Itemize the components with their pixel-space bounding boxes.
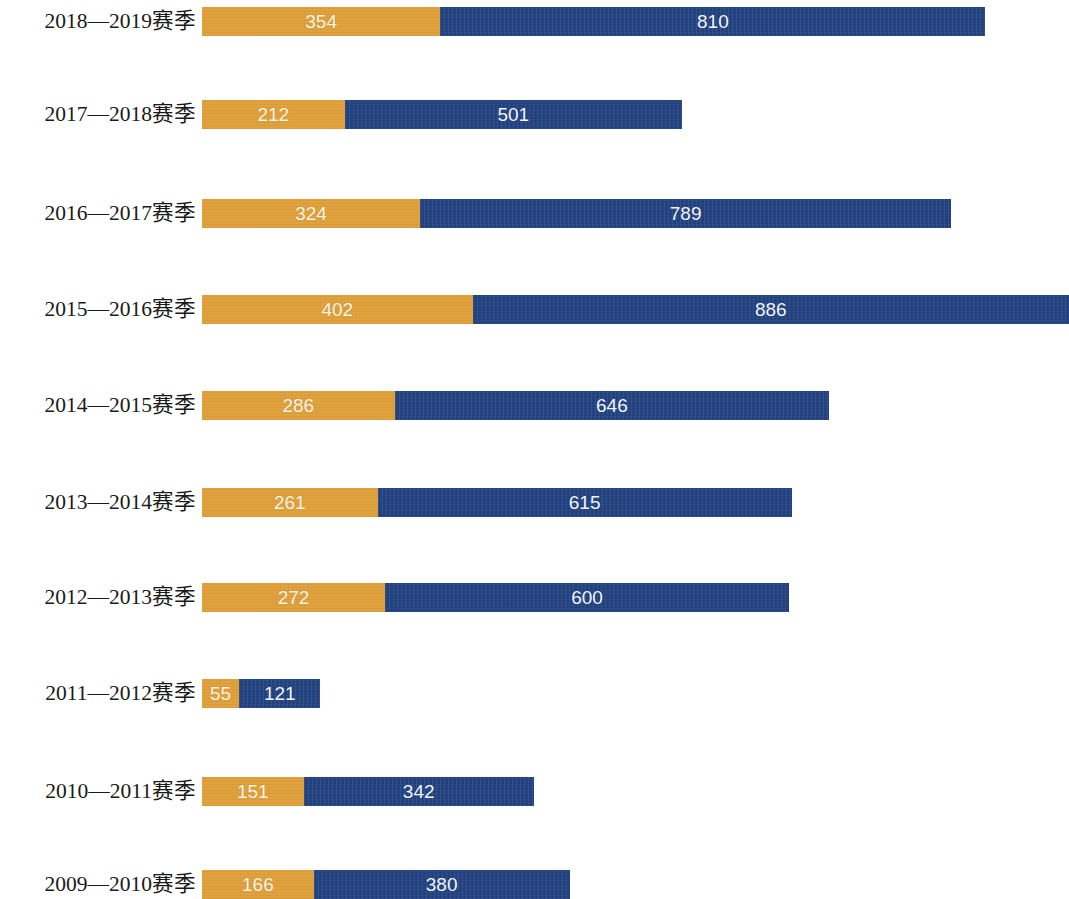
bar-segment-series-1[interactable]: 212: [202, 100, 345, 129]
category-label: 2010—2011赛季: [0, 777, 196, 806]
stacked-bar-track: 261 615: [202, 488, 792, 517]
bar-segment-series-2[interactable]: 886: [473, 295, 1069, 324]
bar-segment-series-1[interactable]: 272: [202, 583, 385, 612]
bar-segment-series-2[interactable]: 342: [304, 777, 534, 806]
bar-segment-series-1[interactable]: 286: [202, 391, 395, 420]
stacked-bar-track: 402 886: [202, 295, 1069, 324]
stacked-bar-chart: 2018—2019赛季 354 810 2017—2018赛季 212 501 …: [0, 0, 1069, 899]
bar-segment-series-1[interactable]: 55: [202, 679, 239, 708]
category-label: 2013—2014赛季: [0, 488, 196, 517]
category-label: 2017—2018赛季: [0, 100, 196, 129]
category-label: 2011—2012赛季: [0, 679, 196, 708]
category-label: 2015—2016赛季: [0, 295, 196, 324]
bar-value-label: 789: [670, 204, 702, 223]
bar-value-label: 166: [242, 875, 274, 894]
bar-value-label: 272: [278, 588, 310, 607]
bar-value-label: 810: [697, 12, 729, 31]
bar-segment-series-1[interactable]: 324: [202, 199, 420, 228]
stacked-bar-track: 286 646: [202, 391, 829, 420]
bar-value-label: 121: [264, 684, 296, 703]
category-label: 2014—2015赛季: [0, 391, 196, 420]
stacked-bar-track: 212 501: [202, 100, 682, 129]
bar-segment-series-2[interactable]: 501: [345, 100, 682, 129]
bar-segment-series-2[interactable]: 615: [378, 488, 792, 517]
bar-segment-series-1[interactable]: 261: [202, 488, 378, 517]
bar-value-label: 151: [237, 782, 269, 801]
stacked-bar-track: 166 380: [202, 870, 570, 899]
stacked-bar-track: 324 789: [202, 199, 951, 228]
category-label: 2012—2013赛季: [0, 583, 196, 612]
bar-segment-series-2[interactable]: 646: [395, 391, 830, 420]
bar-value-label: 212: [257, 105, 289, 124]
bar-segment-series-1[interactable]: 402: [202, 295, 473, 324]
bar-value-label: 886: [755, 300, 787, 319]
bar-value-label: 354: [305, 12, 337, 31]
bar-segment-series-2[interactable]: 810: [440, 7, 985, 36]
bar-segment-series-2[interactable]: 600: [385, 583, 789, 612]
bar-value-label: 600: [571, 588, 603, 607]
bar-value-label: 261: [274, 493, 306, 512]
bar-value-label: 324: [295, 204, 327, 223]
bar-segment-series-1[interactable]: 151: [202, 777, 304, 806]
category-label: 2009—2010赛季: [0, 870, 196, 899]
bar-value-label: 615: [569, 493, 601, 512]
bar-value-label: 501: [497, 105, 529, 124]
bar-value-label: 342: [403, 782, 435, 801]
stacked-bar-track: 55 121: [202, 679, 320, 708]
bar-segment-series-1[interactable]: 166: [202, 870, 314, 899]
bar-segment-series-1[interactable]: 354: [202, 7, 440, 36]
bar-value-label: 55: [210, 684, 231, 703]
bar-segment-series-2[interactable]: 380: [314, 870, 570, 899]
stacked-bar-track: 151 342: [202, 777, 534, 806]
bar-value-label: 402: [321, 300, 353, 319]
bar-value-label: 380: [426, 875, 458, 894]
bar-value-label: 646: [596, 396, 628, 415]
stacked-bar-track: 354 810: [202, 7, 985, 36]
stacked-bar-track: 272 600: [202, 583, 789, 612]
category-label: 2018—2019赛季: [0, 7, 196, 36]
bar-segment-series-2[interactable]: 121: [239, 679, 320, 708]
bar-value-label: 286: [282, 396, 314, 415]
category-label: 2016—2017赛季: [0, 199, 196, 228]
bar-segment-series-2[interactable]: 789: [420, 199, 951, 228]
